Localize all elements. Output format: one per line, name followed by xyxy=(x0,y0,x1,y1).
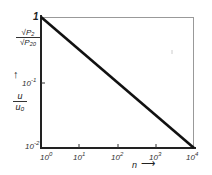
y-tick-label-1: 1 xyxy=(33,11,39,22)
data-line xyxy=(41,17,194,148)
y-arrow-icon: ↑ xyxy=(13,68,19,80)
x-tick-label-10-0: 100 xyxy=(40,151,52,162)
x-tick-label-10-2: 102 xyxy=(111,151,123,162)
x-axis-label: n xyxy=(132,160,137,170)
x-tick-label-10-4: 104 xyxy=(186,151,198,162)
y-axis-label-denominator: u₀ xyxy=(13,102,27,112)
y-axis-label: u u₀ xyxy=(13,91,27,112)
x-tick-label-10-1: 101 xyxy=(73,151,85,162)
y-annotation-denominator: √P₂₀ xyxy=(16,38,40,47)
x-arrow-icon: ⟶ xyxy=(141,158,155,169)
y-tick-label-10-2: 10-2 xyxy=(25,140,39,151)
y-annotation-numerator: √P₂ xyxy=(16,28,40,37)
y-axis-label-numerator: u xyxy=(13,91,27,101)
y-annotation-fraction: √P₂ √P₂₀ xyxy=(16,28,40,47)
y-tick-label-10-1: 10-1 xyxy=(22,77,36,88)
